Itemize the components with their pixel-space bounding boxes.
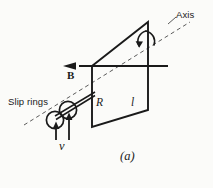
- magnetic-field-label: B: [67, 70, 74, 81]
- axis-label: Axis: [176, 10, 194, 20]
- dashed-axis-line-icon: [24, 22, 190, 125]
- axis-label-leader: [168, 17, 176, 24]
- figure-caption: (a): [120, 150, 135, 163]
- length-label: l: [131, 97, 134, 109]
- velocity-label: ᴠ: [59, 140, 64, 153]
- figure-drawing: [0, 0, 213, 188]
- rotation-arrowhead-icon: [136, 41, 143, 48]
- resistance-label: R: [96, 97, 103, 109]
- up-arrow-icon: [53, 122, 60, 130]
- parallelogram-loop-icon: [92, 22, 148, 127]
- figure-container: Slip rings Axis B R l ᴠ (a): [0, 0, 213, 188]
- slip-rings-label: Slip rings: [8, 97, 48, 107]
